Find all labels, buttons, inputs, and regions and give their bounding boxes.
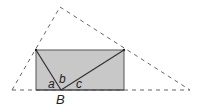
point-label-B: B <box>56 92 65 107</box>
angle-label-b: b <box>59 72 66 86</box>
angle-label-a: a <box>48 77 55 91</box>
geometry-diagram: a b c B <box>0 0 200 108</box>
vertex-top-left-dot <box>35 49 37 51</box>
angle-label-c: c <box>76 77 82 91</box>
vertex-top-right-dot <box>123 49 125 51</box>
